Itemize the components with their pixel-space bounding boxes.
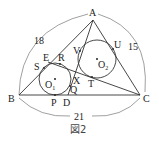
arc-bc-right [92, 98, 140, 116]
label-r: R [58, 52, 65, 63]
label-o1-sub: 1 [52, 85, 55, 91]
center-o1-dot [54, 78, 56, 80]
label-a: A [89, 7, 97, 18]
label-o2-sub: 2 [105, 65, 108, 71]
point-s-dot [43, 67, 45, 69]
figure-caption: 図2 [70, 124, 86, 135]
label-t: T [88, 78, 94, 89]
length-bc: 21 [74, 111, 84, 122]
label-c: C [143, 93, 150, 104]
label-q: Q [70, 84, 78, 95]
label-d: D [63, 97, 70, 108]
side-ab [19, 20, 93, 95]
point-r-dot [59, 63, 61, 65]
label-p: P [51, 97, 57, 108]
label-o1-main: O [45, 79, 52, 90]
label-o2: O2 [98, 59, 108, 71]
label-b: B [8, 93, 15, 104]
geometry-figure: A B C 18 15 21 E S R V U X T Q P D O1 O2… [0, 0, 159, 141]
point-p-dot [54, 94, 56, 96]
arc-ac [98, 14, 145, 92]
label-e: E [43, 52, 49, 63]
length-ab: 18 [34, 35, 44, 46]
label-o2-main: O [98, 59, 105, 70]
length-ac: 15 [128, 41, 138, 52]
side-ac [93, 20, 140, 95]
label-s: S [34, 61, 40, 72]
label-v: V [73, 45, 81, 56]
label-u: U [114, 39, 122, 50]
label-o1: O1 [45, 79, 55, 91]
